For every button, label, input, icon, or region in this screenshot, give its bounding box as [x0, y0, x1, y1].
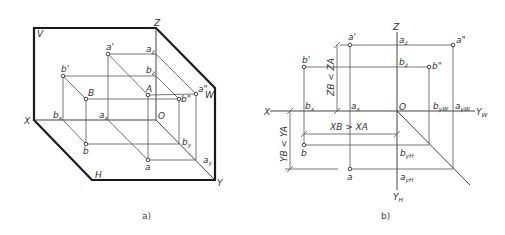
- label-b-dprime: b": [181, 94, 191, 104]
- label-b-prime: b': [61, 64, 69, 74]
- label-byh-b: byH: [400, 148, 414, 160]
- label-by-a: by: [182, 137, 192, 149]
- label-x-axis-b: X: [263, 107, 271, 117]
- point-a-b: [348, 167, 352, 171]
- v-plane-edge: [34, 28, 215, 180]
- label-bx-a: bx: [53, 110, 63, 121]
- dim-z-text: ZB < ZA: [326, 58, 336, 97]
- label-bz-b: bz: [399, 57, 409, 68]
- label-x-axis-a: X: [23, 116, 31, 126]
- caption-a: a): [142, 211, 151, 221]
- label-v-plane: V: [37, 29, 44, 39]
- label-y-axis-a: Y: [217, 178, 224, 188]
- point-a-prime: [106, 52, 110, 56]
- figure-a: V H W Z X Y O a' b' A B a" b" b a bx ax …: [23, 18, 224, 221]
- label-bz-a: bz: [146, 65, 156, 76]
- label-z-axis-b: Z: [392, 22, 400, 32]
- label-ax-a: ax: [99, 110, 109, 121]
- point-b-dprime-b: [427, 65, 431, 69]
- label-b: b: [83, 146, 89, 156]
- label-A: A: [145, 84, 152, 94]
- label-az-b: az: [399, 35, 409, 46]
- diagonal-45: [397, 111, 470, 185]
- label-origin-b: O: [399, 102, 406, 112]
- point-b-prime-b: [302, 65, 306, 69]
- label-a-dprime: a": [198, 84, 208, 94]
- label-b-b: b: [301, 148, 307, 158]
- point-b-prime: [61, 74, 65, 78]
- label-a-prime-b: a': [348, 32, 356, 42]
- label-bx-b: bx: [305, 101, 315, 112]
- projection-figure: V H W Z X Y O a' b' A B a" b" b a bx ax …: [0, 0, 505, 235]
- label-ay-a: ay: [203, 155, 213, 167]
- label-b-prime-b: b': [302, 55, 310, 65]
- label-h-plane: H: [95, 170, 102, 180]
- label-yw-axis: YW: [476, 107, 489, 118]
- label-origin-a: O: [158, 111, 165, 121]
- label-a-prime: a': [106, 42, 114, 52]
- label-b-dprime-b: b": [432, 61, 442, 71]
- point-b-b: [302, 143, 306, 147]
- label-z-axis-a: Z: [153, 18, 161, 28]
- dim-y-text: YB < YA: [279, 126, 289, 162]
- figure-b: Z X O YW YH a' a" b' b" b a az bz bx ax …: [263, 22, 489, 221]
- label-ax-b: ax: [351, 101, 361, 112]
- label-a-dprime-b: a": [456, 35, 466, 45]
- label-B: B: [88, 88, 94, 98]
- point-a-dprime-b: [451, 43, 455, 47]
- label-az-a: az: [146, 44, 156, 55]
- dim-x-text: XB > XA: [329, 122, 368, 132]
- label-a-b: a: [347, 172, 353, 182]
- point-a-prime-b: [348, 43, 352, 47]
- y-axis-a: [156, 120, 215, 180]
- caption-b: b): [381, 211, 390, 221]
- label-ayh-b: ayH: [400, 172, 414, 184]
- label-a: a: [145, 162, 151, 172]
- label-yh-axis: YH: [393, 192, 404, 203]
